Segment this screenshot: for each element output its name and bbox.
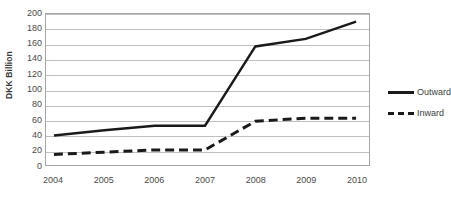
x-axis-tick-label: 2007 xyxy=(183,175,227,185)
legend-item-label: Inward xyxy=(417,105,444,121)
line-chart: DKK Billion 200180160140120100806040200 … xyxy=(0,0,451,207)
x-axis-tick-labels: 2004200520062007200820092010 xyxy=(45,170,370,190)
legend-item-inward[interactable]: Inward xyxy=(388,105,450,126)
x-axis-tick-label: 2009 xyxy=(284,175,328,185)
legend: OutwardInward xyxy=(388,84,450,126)
plot-area xyxy=(45,13,370,166)
y-axis-tick-label: 160 xyxy=(14,39,42,48)
legend-item-outward[interactable]: Outward xyxy=(388,84,450,105)
x-axis-tick-label: 2004 xyxy=(31,175,75,185)
y-axis-tick-label: 40 xyxy=(14,131,42,140)
legend-item-label: Outward xyxy=(417,84,451,100)
x-axis-tick-label: 2008 xyxy=(234,175,278,185)
y-axis-tick-label: 120 xyxy=(14,70,42,79)
y-axis-tick-label: 180 xyxy=(14,24,42,33)
y-axis-tick-label: 60 xyxy=(14,116,42,125)
x-axis-tick-label: 2010 xyxy=(335,175,379,185)
legend-line-swatch-icon xyxy=(388,91,414,94)
y-axis-tick-label: 80 xyxy=(14,100,42,109)
y-axis-tick-label: 0 xyxy=(14,162,42,171)
x-axis-tick-label: 2005 xyxy=(82,175,126,185)
series-group xyxy=(46,14,369,165)
y-axis-tick-label: 100 xyxy=(14,85,42,94)
x-axis-tick-label: 2006 xyxy=(132,175,176,185)
legend-line-swatch-icon xyxy=(388,112,414,115)
y-axis-tick-label: 200 xyxy=(14,9,42,18)
y-axis-tick-label: 20 xyxy=(14,146,42,155)
y-axis-tick-label: 140 xyxy=(14,54,42,63)
